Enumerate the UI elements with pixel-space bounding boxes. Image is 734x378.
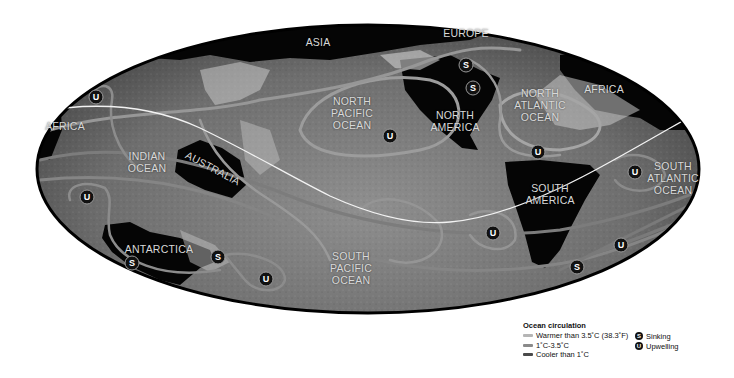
sinking-marker-icon: S	[125, 256, 140, 271]
legend-label-cool: Cooler than 1˚C	[536, 350, 589, 359]
upwelling-marker-icon: U	[259, 272, 274, 287]
swatch-cool	[523, 353, 533, 356]
region-label-north-pacific: NORTHPACIFICOCEAN	[331, 95, 373, 131]
legend-item-upwelling: U Upwelling	[635, 341, 679, 351]
upwelling-marker-icon: U	[80, 190, 95, 205]
legend-label-sinking: Sinking	[646, 332, 671, 341]
legend-item-mid: 1˚C-3.5˚C	[523, 341, 628, 351]
swatch-mid	[523, 344, 533, 347]
legend-title: Ocean circulation	[523, 321, 628, 330]
sinking-marker-icon: S	[459, 58, 474, 73]
legend-item-sinking: S Sinking	[635, 331, 679, 341]
upwelling-marker-icon: U	[628, 165, 643, 180]
legend-label-mid: 1˚C-3.5˚C	[536, 341, 569, 350]
upwelling-icon: U	[635, 342, 643, 350]
region-label-africa-west: AFRICA	[45, 120, 85, 132]
region-label-africa-east: AFRICA	[584, 83, 624, 95]
legend-markers: S Sinking U Upwelling	[635, 331, 679, 351]
region-label-south-pacific: SOUTHPACIFICOCEAN	[330, 250, 372, 286]
legend-ocean-circulation: Ocean circulation Warmer than 3.5˚C (38.…	[523, 321, 628, 360]
sinking-marker-icon: S	[211, 250, 226, 265]
legend-item-warm: Warmer than 3.5˚C (38.3˚F)	[523, 331, 628, 341]
upwelling-marker-icon: U	[383, 129, 398, 144]
region-label-asia: ASIA	[306, 36, 331, 48]
sinking-marker-icon: S	[466, 81, 481, 96]
region-label-europe: EUROPE	[443, 27, 489, 39]
upwelling-marker-icon: U	[531, 145, 546, 160]
region-label-north-atlantic: NORTHATLANTICOCEAN	[514, 87, 566, 123]
region-label-antarctica: ANTARCTICA	[125, 243, 193, 255]
swatch-warm	[523, 334, 533, 337]
legend-item-cool: Cooler than 1˚C	[523, 350, 628, 360]
sinking-icon: S	[635, 332, 643, 340]
region-label-north-america: NORTHAMERICA	[430, 109, 479, 133]
upwelling-marker-icon: U	[89, 90, 104, 105]
upwelling-marker-icon: U	[486, 226, 501, 241]
upwelling-marker-icon: U	[614, 238, 629, 253]
region-label-south-america: SOUTHAMERICA	[525, 182, 574, 206]
region-label-south-atlantic: SOUTHATLANTICOCEAN	[647, 160, 699, 196]
region-label-indian-ocean: INDIANOCEAN	[128, 150, 166, 174]
legend-label-upwelling: Upwelling	[646, 342, 679, 351]
sinking-marker-icon: S	[570, 260, 585, 275]
legend-label-warm: Warmer than 3.5˚C (38.3˚F)	[536, 331, 628, 340]
